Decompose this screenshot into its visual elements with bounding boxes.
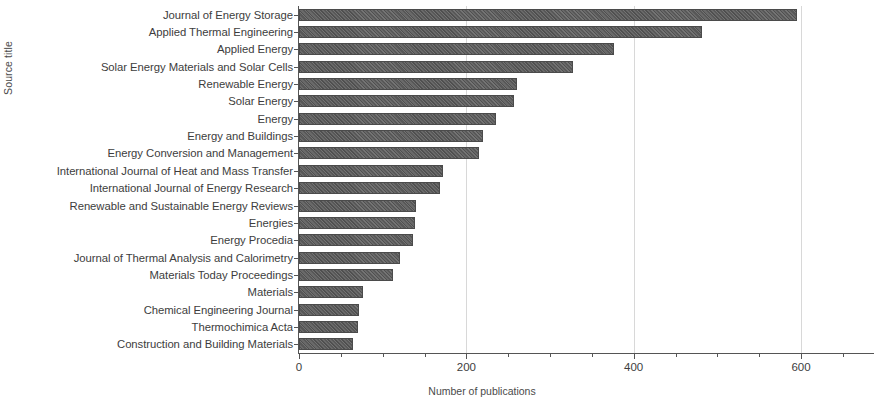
x-axis-minor-tick <box>550 354 551 357</box>
y-axis-tick <box>294 344 298 345</box>
y-axis-tick <box>294 49 298 50</box>
bar <box>299 61 573 73</box>
bar <box>299 321 358 333</box>
y-axis-tick <box>294 84 298 85</box>
y-axis-tick <box>294 206 298 207</box>
y-axis-tick <box>294 67 298 68</box>
bar-chart: Source title Journal of Energy StorageAp… <box>0 0 874 402</box>
y-axis-tick-label: Construction and Building Materials <box>0 338 293 350</box>
x-axis-tick-label: 200 <box>457 361 476 373</box>
y-axis-tick <box>294 240 298 241</box>
x-axis-minor-tick <box>717 354 718 357</box>
y-axis-tick-label: Energy Procedia <box>0 234 293 246</box>
x-axis-minor-tick <box>341 354 342 357</box>
bar <box>299 9 797 21</box>
x-axis-minor-tick <box>425 354 426 357</box>
y-axis-tick-label: Journal of Energy Storage <box>0 9 293 21</box>
x-axis-minor-tick <box>843 354 844 357</box>
y-axis-tick <box>294 275 298 276</box>
x-axis-title: Number of publications <box>0 385 874 397</box>
y-axis-tick <box>294 310 298 311</box>
y-axis-tick-label: Renewable and Sustainable Energy Reviews <box>0 200 293 212</box>
y-axis-tick <box>294 119 298 120</box>
y-axis-tick-label: Applied Energy <box>0 43 293 55</box>
x-axis-tick-label: 400 <box>624 361 643 373</box>
x-axis-major-tick <box>466 354 467 359</box>
y-axis-tick-label: Energy Conversion and Management <box>0 147 293 159</box>
bar <box>299 234 413 246</box>
y-axis-tick-label: Renewable Energy <box>0 78 293 90</box>
bar <box>299 200 416 212</box>
x-axis-tick-label: 0 <box>296 361 302 373</box>
bar <box>299 269 393 281</box>
bar <box>299 130 483 142</box>
y-axis-tick-label: Energies <box>0 217 293 229</box>
bar <box>299 304 359 316</box>
x-axis-minor-tick <box>676 354 677 357</box>
y-axis-tick-label: Energy and Buildings <box>0 130 293 142</box>
bar <box>299 43 614 55</box>
x-axis-major-tick <box>299 354 300 359</box>
y-axis-tick-label: Energy <box>0 113 293 125</box>
y-axis-tick <box>294 101 298 102</box>
y-axis-tick-label: Materials Today Proceedings <box>0 269 293 281</box>
y-axis-tick <box>294 188 298 189</box>
x-axis-minor-tick <box>592 354 593 357</box>
bar <box>299 252 400 264</box>
x-axis-minor-tick <box>759 354 760 357</box>
bar <box>299 26 702 38</box>
bar <box>299 286 363 298</box>
x-axis-minor-tick <box>383 354 384 357</box>
y-axis-tick <box>294 327 298 328</box>
plot-clip <box>299 6 874 353</box>
y-axis-tick <box>294 223 298 224</box>
y-axis-tick <box>294 258 298 259</box>
y-axis-tick <box>294 136 298 137</box>
plot-area <box>299 6 874 353</box>
gridline <box>801 6 802 353</box>
y-axis-tick-label: Solar Energy Materials and Solar Cells <box>0 61 293 73</box>
y-axis-tick-label: Thermochimica Acta <box>0 321 293 333</box>
bar <box>299 165 443 177</box>
y-axis-tick <box>294 292 298 293</box>
x-axis-major-tick <box>801 354 802 359</box>
y-axis-tick-label: Applied Thermal Engineering <box>0 26 293 38</box>
gridline <box>466 6 467 353</box>
gridline <box>634 6 635 353</box>
x-axis-major-tick <box>634 354 635 359</box>
y-axis-tick <box>294 15 298 16</box>
x-axis-tick-label: 600 <box>791 361 810 373</box>
bar <box>299 78 517 90</box>
y-axis-tick <box>294 32 298 33</box>
x-axis-minor-tick <box>508 354 509 357</box>
y-axis-tick-label: International Journal of Energy Research <box>0 182 293 194</box>
bar <box>299 182 440 194</box>
bar <box>299 113 496 125</box>
x-axis-line <box>298 353 874 354</box>
y-axis-tick-label: Materials <box>0 286 293 298</box>
y-axis-tick-label: Solar Energy <box>0 95 293 107</box>
y-axis-tick <box>294 171 298 172</box>
bar <box>299 95 514 107</box>
bar <box>299 338 353 350</box>
x-axis-title-text: Number of publications <box>428 385 535 397</box>
y-axis-tick-label: Chemical Engineering Journal <box>0 304 293 316</box>
y-axis-tick-labels: Journal of Energy StorageApplied Thermal… <box>0 6 293 353</box>
y-axis-tick-label: International Journal of Heat and Mass T… <box>0 165 293 177</box>
y-axis-line <box>298 6 299 353</box>
y-axis-tick <box>294 153 298 154</box>
bar <box>299 217 415 229</box>
y-axis-tick-label: Journal of Thermal Analysis and Calorime… <box>0 252 293 264</box>
bar <box>299 147 479 159</box>
